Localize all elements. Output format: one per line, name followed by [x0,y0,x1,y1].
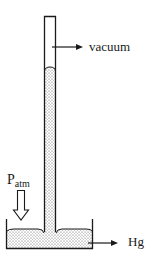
pressure-subscript: atm [15,178,30,189]
vacuum-label: vacuum [89,39,130,55]
tube-mercury-column [45,67,56,232]
mercury-label: Hg [128,234,144,250]
barometer-diagram: vacuum Hg Patm [0,0,155,263]
atmospheric-pressure-arrow [14,191,29,221]
atmospheric-pressure-label: Patm [7,172,30,189]
vacuum-arrow [52,44,83,50]
pressure-symbol: P [7,172,15,187]
barometer-drawing [0,0,155,263]
